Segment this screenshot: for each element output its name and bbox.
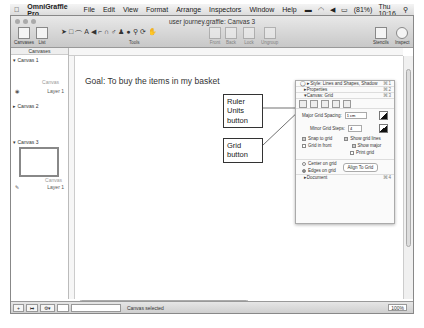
menu-format[interactable]: Format <box>146 6 168 13</box>
layer-row[interactable]: ✎Layer 1 <box>11 183 68 191</box>
inspect-button[interactable]: Inspect <box>395 27 410 45</box>
minor-grid-input[interactable] <box>348 125 362 132</box>
grid-in-front-checkbox[interactable]: Grid in front <box>296 142 338 149</box>
inspector-panel: ◯ ▸ Style: Lines and Shapes, Shadow⌘1 ▸ … <box>295 80 395 224</box>
stencils-button[interactable]: Stencils <box>373 27 389 45</box>
battery-icon[interactable]: ▭ <box>341 6 348 14</box>
volume-icon[interactable]: ◀ <box>330 6 335 14</box>
front-button[interactable]: Front <box>209 27 221 45</box>
ruler-units-icon[interactable] <box>299 100 307 108</box>
sidebar-item-canvas-2[interactable]: ▸ Canvas 2 <box>11 103 68 109</box>
tools-palette: ➤ □ ⌒ A ◀ ⌐ ∩ ♂ ♟ ● ⚲ ⟳ ✋ <box>61 28 157 38</box>
zoom-select[interactable]: 100% <box>388 304 407 311</box>
major-color-well[interactable] <box>379 111 388 120</box>
bring-front-icon <box>209 27 221 39</box>
canvases-icon <box>18 27 30 39</box>
canvas-1-thumbnail[interactable]: Canvas <box>19 65 59 87</box>
toolbar: user journey.graffle: Canvas 3 Canvases … <box>11 16 413 48</box>
hand-tool-icon[interactable]: ✋ <box>148 28 157 38</box>
canvas-3-thumbnail[interactable] <box>19 147 59 177</box>
rotate-tool-icon[interactable]: ⟳ <box>140 28 146 38</box>
line-tool-icon[interactable]: ⌒ <box>75 28 82 38</box>
battery-percent: (81%) <box>354 6 373 13</box>
scroll-thumb[interactable] <box>406 69 411 247</box>
add-button[interactable]: + <box>13 304 24 312</box>
snap-to-grid-checkbox[interactable]: Snap to grid <box>296 135 338 142</box>
send-back-icon <box>225 27 237 39</box>
wifi-icon[interactable]: ◠ <box>318 6 324 14</box>
canvases-button[interactable]: Canvases <box>14 27 34 45</box>
eye-icon[interactable]: ◉ <box>15 88 19 94</box>
sidebar-item-canvas-3[interactable]: ▾ Canvas 3 <box>11 139 68 145</box>
inspect-icon <box>396 27 408 39</box>
edges-on-grid-radio[interactable]: Edges on grid <box>296 167 343 174</box>
zoom-tool-icon[interactable]: ⚲ <box>133 28 138 38</box>
horizontal-ruler[interactable] <box>69 48 403 56</box>
window-title: user journey.graffle: Canvas 3 <box>11 18 413 25</box>
menu-arrange[interactable]: Arrange <box>176 6 201 13</box>
status-text: Canvas selected <box>127 305 164 311</box>
canvas-size-icon[interactable] <box>321 100 329 108</box>
color-well[interactable] <box>57 304 69 312</box>
magnet-tool-icon[interactable]: ∩ <box>104 28 109 38</box>
list-button[interactable]: List <box>36 27 48 45</box>
sidebar-header: Canvases <box>11 48 68 55</box>
layout-icon[interactable] <box>343 100 351 108</box>
menu-view[interactable]: View <box>123 6 138 13</box>
lock-button[interactable]: Lock <box>243 27 255 45</box>
ungroup-button[interactable]: Ungroup <box>261 27 278 45</box>
lock-icon <box>243 27 255 39</box>
print-grid-checkbox[interactable]: Print grid <box>344 149 394 156</box>
display-icon[interactable]: ▬ <box>305 6 312 13</box>
ungroup-icon <box>264 27 276 39</box>
list-icon <box>36 27 48 39</box>
align-to-grid-button[interactable]: Align To Grid <box>343 163 379 172</box>
inspector-section-canvas[interactable]: ▾ Canvas: Grid⌘3 <box>296 93 394 99</box>
minor-grid-row: Minor Grid Steps: <box>296 122 394 135</box>
text-tool-icon[interactable]: A <box>84 28 89 38</box>
layer-row[interactable]: ◉Layer 1 <box>11 87 68 95</box>
browse-tool-icon[interactable]: ● <box>126 28 130 38</box>
style-brush-icon[interactable]: ⌐ <box>98 28 102 38</box>
goal-text[interactable]: Goal: To buy the items in my basket <box>85 76 220 86</box>
menu-window[interactable]: Window <box>249 6 274 13</box>
gear-icon[interactable]: ⚙▾ <box>40 304 55 312</box>
menu-inspectors[interactable]: Inspectors <box>209 6 241 13</box>
menu-file[interactable]: File <box>84 6 95 13</box>
grid-icon[interactable] <box>310 100 318 108</box>
background-icon[interactable] <box>332 100 340 108</box>
major-grid-input[interactable] <box>345 112 367 119</box>
pencil-icon[interactable]: ✎ <box>15 184 19 190</box>
canvases-sidebar: Canvases ▾ Canvas 1 Canvas ◉Layer 1 ▸ Ca… <box>11 48 69 299</box>
inspector-section-document[interactable]: ▸ Document⌘4 <box>296 174 394 180</box>
stencils-icon <box>375 27 387 39</box>
sidebar-item-canvas-1[interactable]: ▾ Canvas 1 <box>11 57 68 63</box>
selection-tool-icon[interactable]: ➤ <box>61 28 67 38</box>
tools-label: Tools <box>129 40 140 45</box>
style-well[interactable] <box>71 304 121 312</box>
status-bar: + ↦ ⚙▾ Canvas selected 100% <box>11 301 413 313</box>
add-layer-button[interactable]: ↦ <box>26 304 38 312</box>
menu-bar:  OmniGraffle Pro File Edit View Format … <box>10 4 414 15</box>
pen-tool-icon[interactable]: ◀ <box>91 28 96 38</box>
spotlight-icon[interactable]: ⚲ <box>403 6 408 14</box>
vertical-scrollbar[interactable] <box>403 56 413 299</box>
minor-color-well[interactable] <box>379 124 388 133</box>
stamp-tool-icon[interactable]: ♟ <box>118 28 124 38</box>
back-button[interactable]: Back <box>225 27 237 45</box>
major-grid-row: Major Grid Spacing: <box>296 109 394 122</box>
grid-button-callout[interactable]: Grid button <box>223 138 263 163</box>
ruler-units-callout[interactable]: Ruler Units button <box>223 94 263 128</box>
apple-menu-icon[interactable]:  <box>14 6 19 13</box>
show-major-checkbox[interactable]: Show major <box>346 142 388 149</box>
center-on-grid-radio[interactable]: Center on grid <box>296 160 343 167</box>
menu-help[interactable]: Help <box>282 6 296 13</box>
shape-tool-icon[interactable]: □ <box>69 28 73 38</box>
menu-edit[interactable]: Edit <box>103 6 115 13</box>
inspector-tabs <box>296 99 394 109</box>
diagram-tool-icon[interactable]: ♂ <box>111 28 116 38</box>
show-grid-lines-checkbox[interactable]: Show grid lines <box>338 135 387 142</box>
